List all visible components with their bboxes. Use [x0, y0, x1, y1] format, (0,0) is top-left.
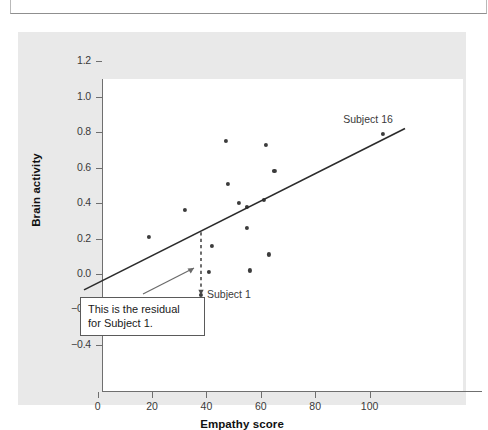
- x-axis-label: Empathy score: [18, 418, 466, 430]
- y-tick: [96, 239, 102, 240]
- x-tick: [315, 392, 316, 398]
- x-tick-label: 100: [361, 400, 379, 412]
- y-tick: [96, 274, 102, 275]
- residual-callout: This is the residual for Subject 1.: [80, 297, 205, 336]
- x-tick: [152, 392, 153, 398]
- x-tick-label: 40: [201, 400, 213, 412]
- y-tick: [96, 61, 102, 62]
- y-tick-label: −0.4: [31, 338, 91, 350]
- point-label: Subject 1: [207, 288, 251, 300]
- x-tick-label: 60: [255, 400, 267, 412]
- x-axis-line: [102, 391, 482, 392]
- y-axis-label: Brain activity: [30, 110, 42, 270]
- point-label: Subject 16: [343, 113, 393, 125]
- x-tick-label: 0: [95, 400, 101, 412]
- callout-line-2: for Subject 1.: [88, 316, 197, 330]
- y-tick: [96, 345, 102, 346]
- x-tick-label: 80: [309, 400, 321, 412]
- y-tick-label: 1.0: [31, 90, 91, 102]
- figure-panel: 1.21.00.80.60.40.20.0−0.2−0.4 0204060801…: [18, 32, 466, 405]
- callout-line-1: This is the residual: [88, 302, 197, 316]
- y-tick: [96, 203, 102, 204]
- y-tick: [96, 132, 102, 133]
- x-tick: [261, 392, 262, 398]
- y-tick: [96, 168, 102, 169]
- x-tick: [98, 392, 99, 398]
- x-tick: [206, 392, 207, 398]
- x-tick-label: 20: [146, 400, 158, 412]
- y-tick-label: 1.2: [31, 54, 91, 66]
- plot-area: [103, 79, 463, 391]
- y-axis-line: [102, 79, 103, 392]
- page-top-rule: [10, 0, 487, 14]
- x-tick: [370, 392, 371, 398]
- y-tick: [96, 97, 102, 98]
